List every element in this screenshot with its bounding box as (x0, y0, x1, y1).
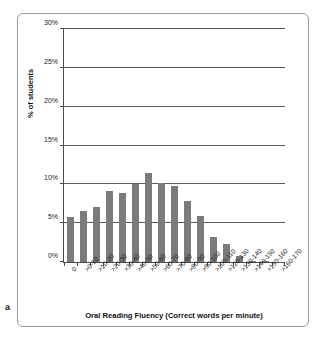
bar-slot (181, 29, 194, 262)
figure-panel-a: a % of students 0%5%10%15%20%25%30% 0>0-… (0, 0, 319, 345)
x-axis-tick-labels: 0>0-10>10-20>20-30>30-40>40-50>50-60>60-… (63, 268, 285, 310)
y-axis-tick-label: 10% (44, 174, 58, 181)
x-axis-label-cell: >140-150 (246, 268, 259, 310)
bar[interactable] (171, 186, 178, 262)
y-axis-tick-label: 15% (44, 135, 58, 142)
bar[interactable] (158, 183, 165, 262)
bar[interactable] (67, 217, 74, 262)
bar-slot (116, 29, 129, 262)
bar-slot (103, 29, 116, 262)
bar-slot (168, 29, 181, 262)
bar-slot (194, 29, 207, 262)
y-axis-tick-label: 20% (44, 96, 58, 103)
panel-letter: a (5, 303, 10, 312)
bar[interactable] (132, 184, 139, 262)
x-axis-label-cell: >20-30 (102, 268, 115, 310)
y-axis-tick-label: 25% (44, 57, 58, 64)
bar-slot (259, 29, 272, 262)
x-axis-label-cell: >100-110 (207, 268, 220, 310)
bar[interactable] (80, 211, 87, 262)
bar-slot (233, 29, 246, 262)
x-axis-label-cell: >150-160 (259, 268, 272, 310)
bar-slot (90, 29, 103, 262)
x-axis-label-cell: >160-170 (272, 268, 285, 310)
x-axis-label-cell: >40-50 (128, 268, 141, 310)
x-axis-title: Oral Reading Fluency (Correct words per … (63, 311, 285, 320)
bar-slot (220, 29, 233, 262)
bar-slot (129, 29, 142, 262)
bars-group (64, 29, 285, 262)
bar-slot (77, 29, 90, 262)
bar[interactable] (145, 173, 152, 262)
bar[interactable] (93, 207, 100, 262)
x-axis-label-cell: >10-20 (89, 268, 102, 310)
x-axis-label-cell: >80-90 (181, 268, 194, 310)
bar-slot (272, 29, 285, 262)
y-axis-title: % of students (26, 69, 35, 118)
plot-area: 0%5%10%15%20%25%30% (63, 29, 285, 263)
x-axis-label-cell: >90-100 (194, 268, 207, 310)
x-axis-label-cell: >30-40 (115, 268, 128, 310)
bar-slot (246, 29, 259, 262)
bar-slot (155, 29, 168, 262)
x-axis-label-cell: >120-130 (220, 268, 233, 310)
bar-slot (142, 29, 155, 262)
y-axis-tick-label: 30% (44, 19, 58, 26)
x-axis-label-cell: >0-10 (76, 268, 89, 310)
x-axis-label-cell: >70-80 (168, 268, 181, 310)
y-axis-tick-label: 0% (48, 252, 58, 259)
bar-slot (64, 29, 77, 262)
x-axis-label-cell: >50-60 (141, 268, 154, 310)
y-axis-tick-label: 5% (48, 213, 58, 220)
x-axis-label-cell: >130-140 (233, 268, 246, 310)
x-axis-label-cell: 0 (63, 268, 76, 310)
bar-slot (207, 29, 220, 262)
x-axis-label-cell: >60-70 (154, 268, 167, 310)
